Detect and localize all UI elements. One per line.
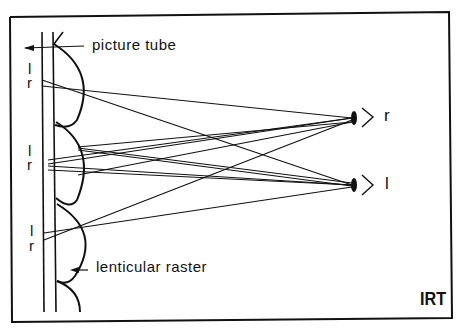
lenticular-lens xyxy=(57,281,80,312)
frame xyxy=(11,15,450,155)
pixel-label-r: r xyxy=(27,74,33,91)
eye-right-label: r xyxy=(384,106,390,126)
diagram-canvas xyxy=(0,0,459,330)
eye-left-label: l xyxy=(385,174,389,194)
picture-tube-label: picture tube xyxy=(92,36,176,53)
pixel-label-r: r xyxy=(27,156,33,173)
lenticular-lens xyxy=(57,204,86,283)
irt-logo: IRT xyxy=(420,288,446,310)
lenticular-raster-label: lenticular raster xyxy=(96,258,207,275)
picture-tube-line xyxy=(53,32,56,312)
eye-icon-left xyxy=(351,175,373,195)
picture-tube-line xyxy=(42,32,44,312)
lenticular-lens xyxy=(56,122,84,205)
eye-icon-right xyxy=(351,108,373,127)
pixel-label-r: r xyxy=(29,237,35,254)
